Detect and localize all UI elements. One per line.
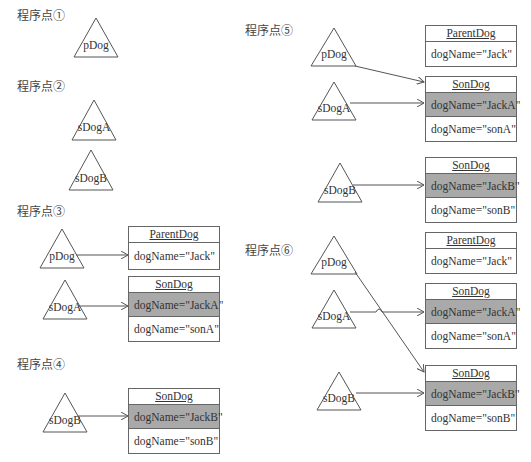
- sdoga-triangle-2: [72, 100, 116, 140]
- sondog-a-object-3: SonDog dogName="JackA" dogName="sonA": [128, 276, 220, 342]
- sondog-a-object-5: SonDog dogName="JackA" dogName="sonA": [425, 76, 517, 142]
- field-dogname: dogName="sonA": [426, 117, 516, 141]
- field-dogname: dogName="sonB": [426, 406, 516, 430]
- field-dogname: dogName="Jack": [426, 249, 516, 273]
- pdog-triangle-3: [40, 229, 84, 268]
- pdog-label-1: pDog: [71, 39, 121, 51]
- sondog-a-object-6: SonDog dogName="JackA" dogName="sonA": [425, 283, 517, 349]
- class-name: SonDog: [426, 366, 516, 382]
- sdogb-label-4: sDogB: [40, 414, 90, 426]
- field-dogname: dogName="sonB": [129, 429, 219, 453]
- pdog-triangle-6: [311, 236, 357, 274]
- sdogb-label-6: sDogB: [314, 392, 364, 404]
- sdoga-label-5: sDogA: [309, 102, 359, 114]
- class-name: SonDog: [129, 277, 219, 293]
- sdogb-triangle-6: [317, 372, 361, 410]
- parentdog-object-6: ParentDog dogName="Jack": [425, 232, 517, 274]
- class-name: ParentDog: [129, 227, 219, 243]
- class-name: SonDog: [426, 77, 516, 93]
- sondog-b-object-4: SonDog dogName="JackB" dogName="sonB": [128, 388, 220, 454]
- field-dogname: dogName="sonA": [129, 317, 219, 341]
- class-name: SonDog: [426, 158, 516, 174]
- inherited-field-dogname: dogName="JackA": [129, 293, 219, 317]
- parentdog-object-5: ParentDog dogName="Jack": [425, 25, 517, 67]
- sdogb-triangle-2: [69, 150, 113, 190]
- inherited-field-dogname: dogName="JackB": [129, 405, 219, 429]
- pdog-label-3: pDog: [37, 250, 87, 262]
- inherited-field-dogname: dogName="JackA": [426, 300, 516, 324]
- sdoga-label-6: sDogA: [309, 310, 359, 322]
- inherited-field-dogname: dogName="JackB": [426, 174, 516, 198]
- field-dogname: dogName="sonA": [426, 324, 516, 348]
- class-name: ParentDog: [426, 233, 516, 249]
- field-dogname: dogName="Jack": [426, 42, 516, 66]
- inherited-field-dogname: dogName="JackA": [426, 93, 516, 117]
- inherited-field-dogname: dogName="JackB": [426, 382, 516, 406]
- field-dogname: dogName="Jack": [129, 243, 219, 269]
- sdoga-label-3: sDogA: [40, 301, 90, 313]
- class-name: SonDog: [129, 389, 219, 405]
- parentdog-object-3: ParentDog dogName="Jack": [128, 226, 220, 270]
- sdogb-triangle-4: [43, 393, 87, 432]
- sdoga-triangle-3: [43, 280, 87, 319]
- sondog-b-object-5: SonDog dogName="JackB" dogName="sonB": [425, 157, 517, 223]
- pdog-label-6: pDog: [309, 256, 359, 268]
- pdog-triangle-1: [74, 18, 118, 57]
- sondog-b-object-6: SonDog dogName="JackB" dogName="sonB": [425, 365, 517, 431]
- sdogb-triangle-5: [318, 163, 362, 202]
- field-dogname: dogName="sonB": [426, 198, 516, 222]
- sdoga-label-2: sDogA: [69, 121, 119, 133]
- sdogb-label-5: sDogB: [315, 184, 365, 196]
- class-name: SonDog: [426, 284, 516, 300]
- sdoga-triangle-6: [312, 290, 356, 328]
- pdog-triangle-5: [311, 28, 356, 66]
- sdoga-triangle-5: [312, 82, 356, 120]
- sdogb-label-2: sDogB: [66, 172, 116, 184]
- pdog-label-5: pDog: [309, 48, 359, 60]
- class-name: ParentDog: [426, 26, 516, 42]
